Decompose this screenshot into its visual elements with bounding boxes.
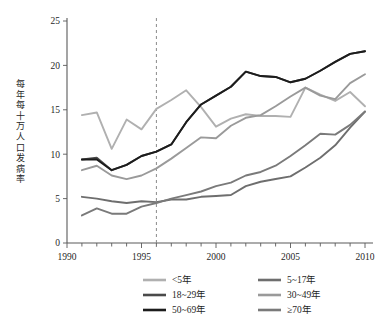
legend-label: 30~49年 <box>287 289 321 300</box>
y-tick-label: 0 <box>55 238 60 248</box>
y-axis-title-char: 病 <box>16 163 25 174</box>
y-axis-title-char: 十 <box>16 110 25 121</box>
series-line <box>82 74 365 179</box>
x-tick-label: 2010 <box>356 252 375 262</box>
y-axis-title-char: 每 <box>16 78 25 89</box>
y-axis-title-char: 每 <box>16 99 25 110</box>
y-axis-title-char: 万 <box>16 121 25 131</box>
chart-canvas: 051015202519901995200020052010每年每十万人口发病率… <box>0 0 392 332</box>
x-tick-label: 2000 <box>207 252 226 262</box>
legend-label: 18~29年 <box>172 289 206 300</box>
y-axis-title-char: 口 <box>16 143 25 153</box>
y-tick-label: 10 <box>51 150 61 160</box>
legend-label: ≥70年 <box>287 304 312 315</box>
incidence-rate-line-chart: 051015202519901995200020052010每年每十万人口发病率… <box>0 0 392 332</box>
series-line <box>82 112 365 216</box>
y-axis-title-char: 年 <box>16 89 25 100</box>
y-axis-title-char: 发 <box>16 152 25 163</box>
y-axis-title: 每年每十万人口发病率 <box>16 78 25 184</box>
y-axis-title-char: 率 <box>16 173 25 184</box>
legend-label: 5~17年 <box>287 274 316 285</box>
legend-label: <5年 <box>172 274 192 285</box>
y-tick-label: 25 <box>51 16 61 26</box>
y-axis-title-char: 人 <box>16 132 25 142</box>
series-line <box>82 51 365 170</box>
y-tick-label: 5 <box>55 194 60 204</box>
y-tick-label: 20 <box>51 61 61 71</box>
x-tick-label: 1995 <box>132 252 151 262</box>
legend-label: 50~69年 <box>172 304 206 315</box>
y-tick-label: 15 <box>51 105 61 115</box>
x-tick-label: 1990 <box>58 252 77 262</box>
x-tick-label: 2005 <box>281 252 300 262</box>
